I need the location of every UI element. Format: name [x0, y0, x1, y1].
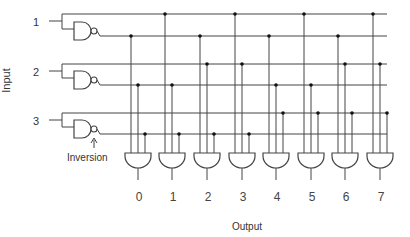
junction-dot	[247, 132, 251, 136]
and-gate-3	[229, 153, 255, 168]
junction-dot	[240, 62, 244, 66]
inversion-bubble-3	[91, 126, 97, 132]
junction-dot	[198, 34, 202, 38]
junction-dot	[233, 12, 237, 16]
and-gate-1	[159, 153, 185, 168]
output-label-0: 0	[136, 191, 143, 203]
junction-dot	[302, 12, 306, 16]
output-label-3: 3	[240, 191, 247, 203]
inverter-gate-2	[74, 71, 91, 89]
output-label-5: 5	[309, 191, 316, 203]
junction-dot	[378, 62, 382, 66]
junction-dot	[170, 83, 174, 87]
junction-dot	[163, 12, 167, 16]
and-gate-7	[367, 153, 393, 168]
junction-dot	[136, 83, 140, 87]
junction-dot	[350, 111, 354, 115]
junction-dot	[267, 34, 271, 38]
input-axis-label: Input	[1, 68, 12, 92]
junction-dot	[385, 111, 389, 115]
and-gate-6	[332, 153, 358, 168]
and-gate-5	[298, 153, 324, 168]
output-label-2: 2	[205, 191, 212, 203]
and-gate-0	[125, 153, 151, 168]
inv-line-1	[97, 31, 387, 36]
junction-dot	[309, 83, 313, 87]
output-axis-label: Output	[232, 222, 262, 232]
junction-dot	[336, 34, 340, 38]
input-label-1: 1	[33, 17, 39, 28]
junction-dot	[129, 34, 133, 38]
and-gate-2	[194, 153, 220, 168]
junction-dot	[343, 62, 347, 66]
inversion-bubble-2	[91, 77, 97, 83]
junction-dot	[281, 111, 285, 115]
junction-dot	[371, 12, 375, 16]
junction-dot	[274, 83, 278, 87]
junction-dot	[205, 62, 209, 66]
junction-dot	[316, 111, 320, 115]
inverter-gate-3	[74, 120, 91, 138]
junction-dot	[177, 132, 181, 136]
input-label-2: 2	[33, 67, 39, 78]
output-label-7: 7	[378, 191, 385, 203]
inversion-bubble-1	[91, 28, 97, 34]
inversion-label: Inversion	[67, 153, 108, 163]
input-label-3: 3	[33, 116, 39, 127]
output-label-1: 1	[170, 191, 177, 203]
inverter-gate-1	[74, 22, 91, 40]
junction-dot	[143, 132, 147, 136]
junction-dot	[212, 132, 216, 136]
output-label-4: 4	[274, 191, 281, 203]
output-label-6: 6	[343, 191, 350, 203]
and-gate-4	[263, 153, 289, 168]
